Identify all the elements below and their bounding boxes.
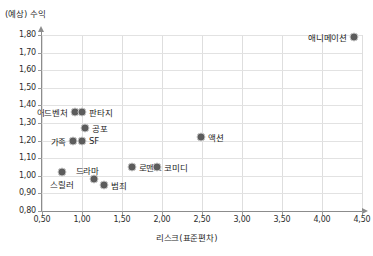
scatter-chart: (예상) 수익 애니메이션어드벤처판타지공포가족SF액션로맨스코미디드라마범죄스… [0,0,373,256]
y-tick-mark [38,35,42,36]
data-point-label: 범죄 [111,179,127,191]
x-tick-label: 3,50 [262,215,302,224]
data-point-label: SF [89,136,99,146]
gridline-horizontal [42,193,362,194]
data-point-label: 스릴러 [50,178,73,190]
data-point[interactable] [197,133,206,142]
gridline-horizontal [42,53,362,54]
y-tick-label: 1,00 [2,171,36,180]
data-point[interactable] [350,32,359,41]
y-tick-label: 1,60 [2,65,36,74]
data-point-label: 드라마 [76,164,99,176]
data-point-label: 코미디 [164,161,187,173]
gridline-vertical [362,35,363,211]
gridline-horizontal [42,70,362,71]
x-tick-label: 1,50 [102,215,142,224]
x-tick-label: 1,00 [62,215,102,224]
x-tick-label: 0,50 [22,215,62,224]
y-tick-label: 1,10 [2,153,36,162]
data-point[interactable] [81,124,90,133]
data-point-label: 공포 [92,122,108,134]
x-axis-title: 리스크(표준편차) [0,231,373,243]
y-tick-label: 1,50 [2,83,36,92]
y-tick-mark [38,88,42,89]
y-tick-mark [38,176,42,177]
data-point-label: 액션 [208,131,224,143]
gridline-horizontal [42,158,362,159]
y-axis-title: (예상) 수익 [5,7,46,19]
data-point[interactable] [127,163,136,172]
y-tick-mark [38,211,42,212]
data-point[interactable] [153,163,162,172]
y-tick-mark [38,53,42,54]
data-point-label: 판타지 [89,106,112,118]
x-tick-label: 2,50 [182,215,222,224]
y-axis-line [41,30,42,212]
y-tick-label: 1,80 [2,30,36,39]
y-tick-mark [38,193,42,194]
y-tick-label: 1,30 [2,118,36,127]
data-point[interactable] [100,180,109,189]
y-tick-mark [38,105,42,106]
data-point[interactable] [78,136,87,145]
y-tick-label: 0,90 [2,188,36,197]
y-tick-label: 1,40 [2,100,36,109]
y-tick-mark [38,70,42,71]
y-tick-label: 0,80 [2,206,36,215]
data-point-label: 애니메이션 [308,31,347,43]
x-tick-label: 4,50 [342,215,373,224]
y-tick-mark [38,158,42,159]
gridline-horizontal [42,88,362,89]
y-tick-label: 1,70 [2,48,36,57]
y-tick-label: 1,20 [2,136,36,145]
data-point-label: 가족 [51,135,67,147]
x-tick-label: 4,00 [302,215,342,224]
y-axis-arrow-icon [38,26,44,32]
x-axis-line [42,211,364,212]
x-tick-label: 3,00 [222,215,262,224]
y-tick-mark [38,141,42,142]
x-tick-label: 2,00 [142,215,182,224]
gridline-horizontal [42,123,362,124]
plot-area: 애니메이션어드벤처판타지공포가족SF액션로맨스코미디드라마범죄스릴러 [42,35,362,211]
y-tick-mark [38,123,42,124]
data-point[interactable] [69,136,78,145]
data-point[interactable] [78,108,87,117]
data-point[interactable] [58,168,67,177]
